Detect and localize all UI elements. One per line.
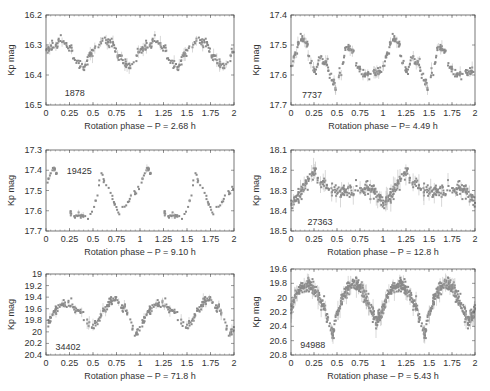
x-tick-label: 1.75 [443,234,461,244]
x-tick-label: 0.5 [331,234,344,244]
x-tick-label: 0 [43,234,48,244]
x-tick-label: 1.5 [423,108,436,118]
x-tick-label: 0.75 [351,234,369,244]
y-axis-label: Kp mag [251,296,261,327]
x-tick-label: 0.75 [108,108,126,118]
x-tick-label: 1.75 [202,108,220,118]
y-tick-label: 18.3 [269,186,287,196]
panel-94988: 00.250.50.7511.251.51.752Rotation phase … [251,264,478,381]
x-tick-label: 1 [380,108,385,118]
x-tick-label: 1.75 [202,234,220,244]
x-axis-label: Rotation phase – P= 4.49 h [328,121,437,131]
y-tick-label: 16.4 [24,70,42,80]
x-tick-label: 0.5 [87,358,100,368]
x-tick-label: 1 [380,358,385,368]
y-tick-label: 16.5 [24,100,42,110]
x-tick-label: 1 [137,234,142,244]
y-axis: 19.619.82020.220.420.620.8Kp mag [251,264,475,360]
x-tick-label: 1 [380,234,385,244]
panel-27363: 00.250.50.7511.251.51.752Rotation phase … [251,145,478,257]
x-tick-label: 0.5 [331,358,344,368]
y-tick-label: 17.4 [24,165,42,175]
y-tick-label: 19.4 [24,292,42,302]
y-tick-label: 20 [32,327,42,337]
x-tick-label: 0.25 [305,234,323,244]
x-tick-label: 1.75 [443,358,461,368]
y-tick-label: 19.8 [269,278,287,288]
x-tick-label: 0.5 [331,108,344,118]
x-tick-label: 1.75 [443,108,461,118]
panel-1878: 00.250.50.7511.251.51.752Rotation phase … [6,10,237,131]
x-tick-label: 0.25 [305,358,323,368]
y-tick-label: 20.6 [269,336,287,346]
y-axis: 16.216.316.416.5Kp mag [6,10,234,110]
y-tick-label: 20.4 [24,350,42,360]
x-axis-label: Rotation phase – P = 5.43 h [327,371,439,381]
y-axis-label: Kp mag [6,44,16,75]
object-id-label: 19425 [67,166,92,176]
y-tick-label: 20.8 [269,350,287,360]
x-tick-label: 2 [231,108,236,118]
y-tick-label: 17.4 [269,10,287,20]
object-id-label: 7737 [302,90,322,100]
object-id-label: 94988 [300,340,325,350]
x-tick-label: 0.25 [61,108,79,118]
y-axis-label: Kp mag [251,44,261,75]
x-tick-label: 1.25 [397,234,415,244]
x-tick-label: 0 [288,358,293,368]
data-points [47,293,235,337]
y-tick-label: 18.2 [269,165,287,175]
y-axis: 1919.219.419.619.82020.220.4Kp mag [6,269,234,360]
x-tick-label: 1.25 [397,108,415,118]
panel-34402: 00.250.50.7511.251.51.752Rotation phase … [6,269,237,381]
light-curve-figure: 00.250.50.7511.251.51.752Rotation phase … [0,0,490,391]
y-tick-label: 20.4 [269,321,287,331]
x-tick-label: 1.5 [423,234,436,244]
axes-frame [46,150,234,231]
x-tick-label: 1.5 [181,234,194,244]
x-tick-label: 0.5 [87,234,100,244]
data-points [290,158,476,212]
data-points [290,274,476,344]
y-tick-label: 16.2 [24,10,42,20]
y-tick-label: 18.4 [269,206,287,216]
y-tick-label: 19.8 [24,315,42,325]
y-tick-label: 17.6 [269,70,287,80]
panel-7737: 00.250.50.7511.251.51.752Rotation phase … [251,10,478,131]
x-tick-label: 0 [43,358,48,368]
y-tick-label: 16.3 [24,40,42,50]
x-axis-label: Rotation phase – P = 9.10 h [84,247,196,257]
object-id-label: 1878 [65,88,85,98]
x-tick-label: 0 [288,108,293,118]
y-tick-label: 20.2 [269,307,287,317]
x-axis: 00.250.50.7511.251.51.752Rotation phase … [43,15,236,131]
y-tick-label: 17.5 [269,40,287,50]
x-tick-label: 1 [137,358,142,368]
y-tick-label: 19.6 [269,264,287,274]
y-tick-label: 19.2 [24,281,42,291]
x-tick-label: 2 [472,108,477,118]
y-axis-label: Kp mag [251,175,261,206]
y-axis-label: Kp mag [6,175,16,206]
y-tick-label: 19.6 [24,304,42,314]
x-tick-label: 0.75 [108,234,126,244]
x-tick-label: 2 [231,234,236,244]
y-axis: 17.417.517.617.7Kp mag [251,10,475,110]
data-points [290,33,474,95]
x-tick-label: 0.25 [305,108,323,118]
x-tick-label: 0 [288,234,293,244]
panel-19425: 00.250.50.7511.251.51.752Rotation phase … [6,145,237,257]
y-tick-label: 17.5 [24,186,42,196]
x-tick-label: 0.25 [61,358,79,368]
y-tick-label: 17.7 [24,226,42,236]
y-tick-label: 19 [32,269,42,279]
y-tick-label: 17.3 [24,145,42,155]
x-tick-label: 0.75 [351,108,369,118]
x-tick-label: 1.25 [155,358,173,368]
x-tick-label: 0.75 [108,358,126,368]
x-tick-label: 1 [137,108,142,118]
x-axis-label: Rotation phase – P = 71.8 h [84,371,196,381]
y-tick-label: 18.1 [269,145,287,155]
y-axis-label: Kp mag [6,299,16,330]
x-tick-label: 2 [231,358,236,368]
